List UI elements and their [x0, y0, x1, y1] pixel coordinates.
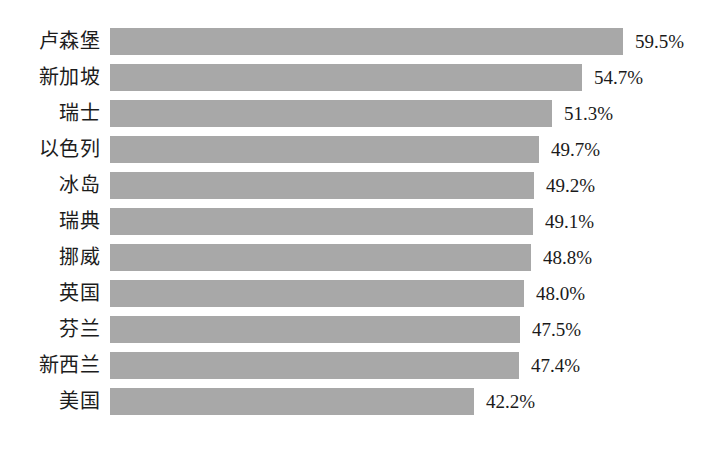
- bar: [110, 316, 520, 343]
- bar-row: 英国48.0%: [0, 280, 714, 307]
- bar-track: 48.8%: [110, 244, 714, 271]
- bar-rows: 卢森堡59.5%新加坡54.7%瑞士51.3%以色列49.7%冰岛49.2%瑞典…: [0, 28, 714, 424]
- category-label: 瑞士: [0, 100, 100, 127]
- category-label: 新加坡: [0, 64, 100, 91]
- bar: [110, 28, 623, 55]
- category-label: 新西兰: [0, 352, 100, 379]
- value-label: 47.4%: [531, 352, 580, 379]
- bar-row: 新西兰47.4%: [0, 352, 714, 379]
- bar-row: 瑞典49.1%: [0, 208, 714, 235]
- bar-track: 48.0%: [110, 280, 714, 307]
- bar-track: 47.5%: [110, 316, 714, 343]
- bar-row: 美国42.2%: [0, 388, 714, 415]
- bar: [110, 136, 539, 163]
- bar-row: 冰岛49.2%: [0, 172, 714, 199]
- bar-track: 49.7%: [110, 136, 714, 163]
- category-label: 以色列: [0, 136, 100, 163]
- bar-track: 49.2%: [110, 172, 714, 199]
- category-label: 挪威: [0, 244, 100, 271]
- bar: [110, 388, 474, 415]
- bar: [110, 280, 524, 307]
- value-label: 59.5%: [635, 28, 684, 55]
- value-label: 49.7%: [551, 136, 600, 163]
- bar-track: 54.7%: [110, 64, 714, 91]
- bar-row: 瑞士51.3%: [0, 100, 714, 127]
- bar-row: 以色列49.7%: [0, 136, 714, 163]
- bar: [110, 208, 533, 235]
- bar-track: 42.2%: [110, 388, 714, 415]
- value-label: 49.1%: [545, 208, 594, 235]
- value-label: 42.2%: [486, 388, 535, 415]
- bar: [110, 244, 531, 271]
- bar-row: 新加坡54.7%: [0, 64, 714, 91]
- bar: [110, 64, 582, 91]
- category-label: 瑞典: [0, 208, 100, 235]
- category-label: 美国: [0, 388, 100, 415]
- category-label: 英国: [0, 280, 100, 307]
- value-label: 48.8%: [543, 244, 592, 271]
- value-label: 54.7%: [594, 64, 643, 91]
- bar: [110, 100, 552, 127]
- category-label: 卢森堡: [0, 28, 100, 55]
- category-label: 芬兰: [0, 316, 100, 343]
- bar: [110, 172, 534, 199]
- bar-row: 卢森堡59.5%: [0, 28, 714, 55]
- bar-track: 49.1%: [110, 208, 714, 235]
- bar-track: 51.3%: [110, 100, 714, 127]
- bar-row: 挪威48.8%: [0, 244, 714, 271]
- bar-track: 59.5%: [110, 28, 714, 55]
- value-label: 47.5%: [532, 316, 581, 343]
- bar-chart: 卢森堡59.5%新加坡54.7%瑞士51.3%以色列49.7%冰岛49.2%瑞典…: [0, 0, 714, 450]
- value-label: 49.2%: [546, 172, 595, 199]
- value-label: 48.0%: [536, 280, 585, 307]
- category-label: 冰岛: [0, 172, 100, 199]
- bar-row: 芬兰47.5%: [0, 316, 714, 343]
- value-label: 51.3%: [564, 100, 613, 127]
- bar: [110, 352, 519, 379]
- bar-track: 47.4%: [110, 352, 714, 379]
